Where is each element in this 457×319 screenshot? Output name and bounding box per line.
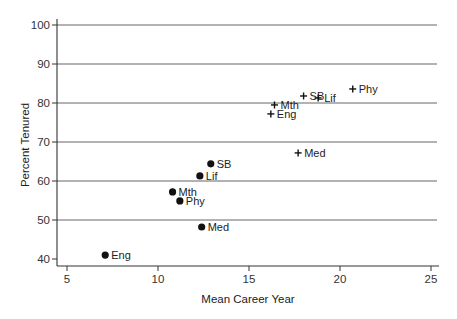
point-label: Eng — [111, 249, 131, 261]
y-axis-title: Percent Tenured — [19, 103, 31, 187]
x-tick-label: 20 — [334, 273, 347, 285]
data-points: EngMthPhyLifSBMedEngMthSBLifPhyMed — [102, 83, 379, 261]
y-tick-label: 50 — [37, 214, 50, 226]
circle-marker — [102, 252, 109, 259]
y-tick-label: 60 — [37, 175, 50, 187]
circle-marker — [196, 172, 203, 179]
x-tick-label: 25 — [425, 273, 438, 285]
point-label: SB — [310, 90, 325, 102]
y-tick-label: 100 — [31, 19, 50, 31]
y-tick-label: 70 — [37, 136, 50, 148]
circle-marker — [176, 197, 183, 204]
x-axis-title: Mean Career Year — [201, 293, 295, 305]
circle-marker — [169, 188, 176, 195]
x-tick-label: 10 — [152, 273, 165, 285]
scatter-chart: 405060708090100 510152025 EngMthPhyLifSB… — [0, 0, 457, 319]
axes — [57, 19, 439, 266]
point-label: Lif — [206, 170, 219, 182]
circle-marker — [207, 160, 214, 167]
y-axis-ticks: 405060708090100 — [31, 19, 57, 265]
point-label: Mth — [280, 99, 298, 111]
circle-marker — [198, 223, 205, 230]
point-label: Med — [208, 221, 229, 233]
point-label: Phy — [186, 195, 205, 207]
x-tick-label: 5 — [64, 273, 70, 285]
y-tick-label: 90 — [37, 58, 50, 70]
x-tick-label: 15 — [243, 273, 256, 285]
point-label: Phy — [359, 83, 378, 95]
x-axis-ticks: 510152025 — [64, 266, 438, 285]
point-label: Lif — [324, 92, 337, 104]
y-tick-label: 80 — [37, 97, 50, 109]
point-label: Med — [304, 147, 325, 159]
y-tick-label: 40 — [37, 253, 50, 265]
point-label: SB — [217, 158, 232, 170]
gridlines — [57, 25, 437, 220]
